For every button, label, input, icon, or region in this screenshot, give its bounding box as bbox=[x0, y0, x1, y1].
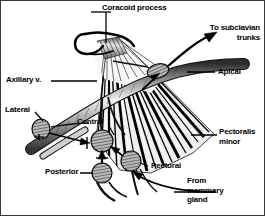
central-node bbox=[91, 130, 113, 152]
label-apical: Apical bbox=[218, 67, 241, 77]
label-coracoid-process: Coracoid process bbox=[102, 3, 166, 13]
posterior-node bbox=[92, 163, 112, 183]
lateral-node bbox=[32, 119, 50, 139]
label-posterior: Posterior bbox=[45, 167, 78, 177]
label-pectoralis-minor: Pectoralis minor bbox=[219, 127, 264, 146]
pectoral-node bbox=[121, 151, 141, 171]
label-axillary-vein: Axillary v. bbox=[6, 75, 41, 85]
label-lateral: Lateral bbox=[5, 105, 30, 115]
label-from-mammary-gland: From mammary gland bbox=[187, 176, 249, 205]
label-to-subclavian-trunks: To subclavian trunks bbox=[180, 23, 260, 42]
label-central: Central bbox=[77, 117, 103, 127]
anatomical-figure: Coracoid process To subclavian trunks Ap… bbox=[0, 0, 265, 216]
label-pectoral: Pectoral bbox=[151, 161, 181, 171]
